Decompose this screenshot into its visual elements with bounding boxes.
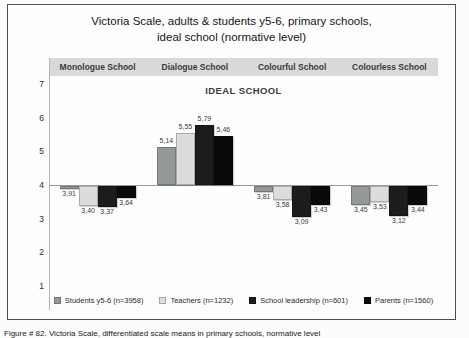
- bar-value-label: 5,46: [208, 126, 238, 133]
- legend-marker-icon: [364, 297, 371, 304]
- legend-marker-icon: [249, 297, 256, 304]
- legend-item: Teachers (n=1232): [159, 296, 233, 305]
- legend-label: School leadership (n=601): [260, 296, 348, 305]
- category-header-strip: Monologue SchoolDialogue SchoolColourful…: [49, 58, 438, 76]
- bar-value-label: 3,64: [111, 199, 141, 206]
- chart-title-line1: Victoria Scale, adults & students y5-6, …: [8, 13, 455, 29]
- category-header: Dialogue School: [146, 62, 243, 72]
- bar: [79, 186, 98, 206]
- bar: [60, 186, 79, 189]
- bar: [214, 136, 233, 185]
- bar-value-label: 3,44: [403, 206, 433, 213]
- legend-item: Parents (n=1560): [364, 296, 433, 305]
- bar-value-label: 3,12: [384, 217, 414, 224]
- bar: [195, 125, 214, 185]
- y-axis-tick: 4: [26, 180, 44, 190]
- y-axis-tick: 6: [26, 113, 44, 123]
- bar-value-label: 5,79: [189, 115, 219, 122]
- y-axis-tick: 1: [26, 281, 44, 291]
- bar: [408, 186, 427, 205]
- bar: [273, 186, 292, 200]
- plot-subtitle: IDEAL SCHOOL: [49, 85, 438, 96]
- bar: [157, 147, 176, 185]
- legend: Students y5-6 (n=3958)Teachers (n=1232)S…: [49, 296, 438, 305]
- bar: [254, 186, 273, 192]
- legend-marker-icon: [54, 297, 61, 304]
- category-header: Colourful School: [244, 62, 341, 72]
- bar: [351, 186, 370, 205]
- category-header: Colourless School: [341, 62, 438, 72]
- legend-label: Students y5-6 (n=3958): [65, 296, 144, 305]
- legend-label: Teachers (n=1232): [170, 296, 233, 305]
- legend-item: School leadership (n=601): [249, 296, 348, 305]
- chart-title: Victoria Scale, adults & students y5-6, …: [8, 13, 455, 45]
- y-axis-tick: 7: [26, 79, 44, 89]
- category-header: Monologue School: [49, 62, 146, 72]
- figure-caption: Figure # 82. Victoria Scale, differentia…: [4, 329, 464, 338]
- y-axis-line: [49, 58, 50, 310]
- bar-value-label: 3,09: [287, 218, 317, 225]
- legend-item: Students y5-6 (n=3958): [54, 296, 144, 305]
- bar-value-label: 3,43: [306, 206, 336, 213]
- chart-title-line2: ideal school (normative level): [8, 29, 455, 45]
- bar: [311, 186, 330, 205]
- legend-marker-icon: [159, 297, 166, 304]
- bar-value-label: 3,37: [92, 208, 122, 215]
- legend-label: Parents (n=1560): [375, 296, 433, 305]
- bar: [176, 133, 195, 185]
- y-axis-tick: 2: [26, 247, 44, 257]
- bar: [117, 186, 136, 198]
- chart-frame: Victoria Scale, adults & students y5-6, …: [7, 4, 456, 320]
- y-axis-tick: 5: [26, 146, 44, 156]
- bar: [370, 186, 389, 202]
- y-axis-tick: 3: [26, 214, 44, 224]
